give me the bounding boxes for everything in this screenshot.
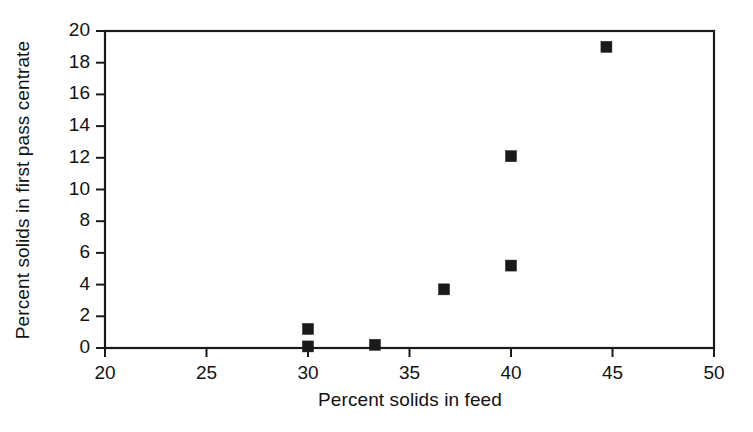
y-tick-label-6: 6 xyxy=(30,241,90,263)
x-tick-label-25: 25 xyxy=(177,362,237,384)
x-tick-label-45: 45 xyxy=(583,362,643,384)
scatter-chart-figure: Percent solids in first pass centrate Pe… xyxy=(0,0,753,432)
data-point-0-0 xyxy=(303,323,314,334)
tick-marks xyxy=(96,31,714,357)
data-points xyxy=(303,41,612,352)
data-point-0-2 xyxy=(369,339,380,350)
x-tick-label-35: 35 xyxy=(380,362,440,384)
axes-box xyxy=(105,31,714,348)
data-point-0-4 xyxy=(506,260,517,271)
y-tick-label-16: 16 xyxy=(30,82,90,104)
y-tick-label-4: 4 xyxy=(30,273,90,295)
x-tick-label-30: 30 xyxy=(278,362,338,384)
x-tick-label-40: 40 xyxy=(481,362,541,384)
y-tick-label-14: 14 xyxy=(30,114,90,136)
data-point-0-6 xyxy=(601,41,612,52)
y-tick-label-18: 18 xyxy=(30,51,90,73)
data-point-0-3 xyxy=(439,284,450,295)
y-tick-label-12: 12 xyxy=(30,146,90,168)
x-tick-label-20: 20 xyxy=(75,362,135,384)
y-tick-label-20: 20 xyxy=(30,19,90,41)
y-tick-label-8: 8 xyxy=(30,209,90,231)
y-tick-label-10: 10 xyxy=(30,178,90,200)
data-point-0-5 xyxy=(506,151,517,162)
y-tick-label-2: 2 xyxy=(30,304,90,326)
data-point-0-1 xyxy=(303,341,314,352)
axes-frame xyxy=(105,31,714,348)
x-tick-label-50: 50 xyxy=(684,362,744,384)
y-tick-label-0: 0 xyxy=(30,336,90,358)
